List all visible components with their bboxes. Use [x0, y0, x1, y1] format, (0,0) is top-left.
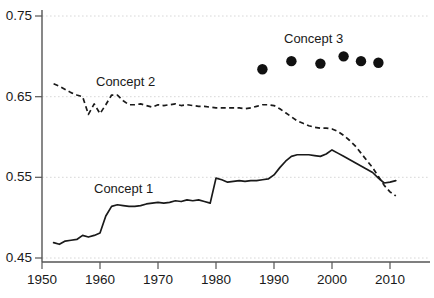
series-annotation-concept-3: Concept 3 — [284, 31, 343, 46]
x-tick-label-1960: 1960 — [76, 272, 124, 287]
y-tick-label-045: 0.45 — [0, 250, 32, 265]
series-line-concept-1 — [54, 150, 396, 244]
x-axis-ticks — [42, 262, 390, 269]
gridlines — [42, 16, 430, 258]
y-axis-ticks — [35, 16, 42, 258]
marker-concept-3-1993 — [286, 56, 296, 66]
marker-concept-3-1998 — [315, 58, 325, 68]
series-annotation-concept-1: Concept 1 — [94, 181, 153, 196]
marker-concept-3-2005 — [356, 56, 366, 66]
marker-concept-3-1988 — [257, 64, 267, 74]
x-tick-label-2010: 2010 — [366, 272, 414, 287]
y-tick-label-075: 0.75 — [0, 8, 32, 23]
chart-plot-area — [0, 0, 434, 298]
series-markers-concept-3 — [257, 51, 383, 74]
y-tick-label-055: 0.55 — [0, 169, 32, 184]
marker-concept-3-2002 — [338, 51, 348, 61]
marker-concept-3-2008 — [373, 58, 383, 68]
x-tick-label-1950: 1950 — [18, 272, 66, 287]
axis-lines — [42, 10, 430, 262]
line-chart: 0.75 0.65 0.55 0.45 1950 1960 1970 1980 … — [0, 0, 434, 298]
x-tick-label-1980: 1980 — [192, 272, 240, 287]
series-line-concept-2 — [54, 84, 396, 196]
x-tick-label-1970: 1970 — [134, 272, 182, 287]
x-tick-label-1990: 1990 — [250, 272, 298, 287]
y-tick-label-065: 0.65 — [0, 89, 32, 104]
series-annotation-concept-2: Concept 2 — [96, 74, 155, 89]
x-tick-label-2000: 2000 — [308, 272, 356, 287]
